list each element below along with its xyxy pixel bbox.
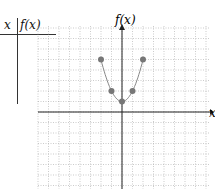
data-point <box>109 88 115 94</box>
data-point <box>140 57 146 63</box>
coordinate-plane <box>0 0 215 189</box>
x-axis-label: x <box>209 106 215 120</box>
data-point <box>119 99 125 105</box>
y-axis-label: f(x) <box>115 13 136 27</box>
data-point <box>130 88 136 94</box>
data-point <box>98 57 104 63</box>
